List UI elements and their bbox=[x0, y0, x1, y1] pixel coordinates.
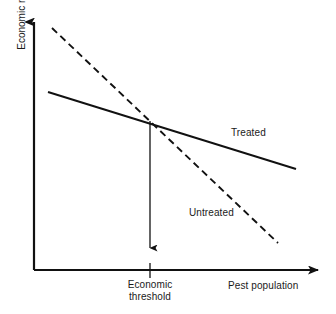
y-axis-label: Economic net revenue bbox=[16, 0, 28, 50]
economic-threshold-label-line1: Economic bbox=[110, 279, 190, 291]
series-label-treated: Treated bbox=[231, 127, 266, 139]
chart-canvas bbox=[0, 0, 336, 314]
economic-threshold-chart: Treated Untreated Pest population Econom… bbox=[0, 0, 336, 314]
economic-threshold-label: Economic threshold bbox=[110, 279, 190, 303]
economic-threshold-label-line2: threshold bbox=[110, 291, 190, 303]
series-label-untreated: Untreated bbox=[189, 207, 234, 219]
x-axis-label: Pest population bbox=[228, 280, 298, 292]
